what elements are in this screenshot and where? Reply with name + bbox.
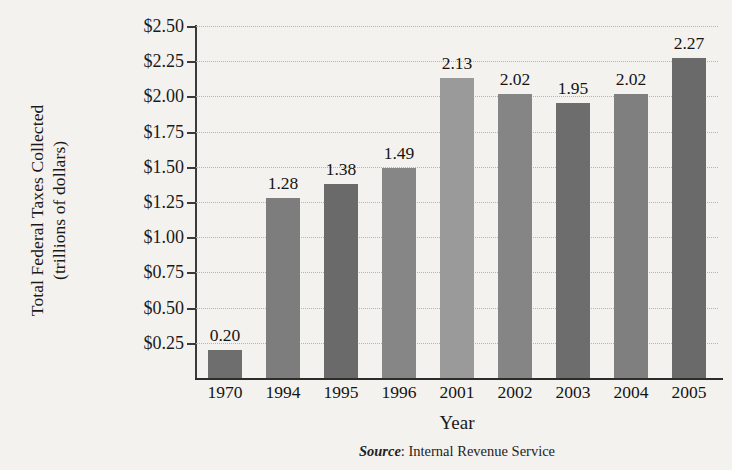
bar-slot: 1.381995 — [312, 26, 370, 378]
bar[interactable]: 2.02 — [614, 94, 649, 378]
x-tick-label: 1970 — [208, 382, 243, 403]
bar-slot: 1.491996 — [370, 26, 428, 378]
bar-value-label: 2.02 — [616, 69, 647, 90]
y-tick-mark — [187, 61, 196, 63]
bar-value-label: 1.38 — [326, 159, 357, 180]
y-tick-label: $2.25 — [144, 51, 185, 72]
bar-value-label: 1.28 — [268, 173, 299, 194]
bar[interactable]: 1.49 — [382, 168, 417, 378]
y-tick-mark — [187, 167, 196, 169]
x-tick-label: 2003 — [556, 382, 591, 403]
x-tick-label: 1994 — [266, 382, 301, 403]
source-text: Internal Revenue Service — [409, 443, 556, 459]
x-tick-label: 2005 — [672, 382, 707, 403]
x-tick-label: 1996 — [382, 382, 417, 403]
bar-slot: 0.201970 — [196, 26, 254, 378]
bar[interactable]: 2.02 — [498, 94, 533, 378]
source-label: Source — [359, 443, 401, 459]
y-tick-mark — [187, 237, 196, 239]
y-tick-mark — [187, 202, 196, 204]
y-tick-mark — [187, 272, 196, 274]
y-tick-label: $1.25 — [144, 192, 185, 213]
x-axis-line — [195, 378, 723, 380]
y-tick-label: $1.00 — [144, 227, 185, 248]
source-note: Source: Internal Revenue Service — [196, 443, 718, 460]
y-tick-mark — [187, 308, 196, 310]
x-tick-label: 2004 — [614, 382, 649, 403]
y-tick-label: $0.25 — [144, 332, 185, 353]
bar[interactable]: 0.20 — [208, 350, 243, 378]
bar-value-label: 2.27 — [674, 33, 705, 54]
bar-slot: 2.132001 — [428, 26, 486, 378]
bar-value-label: 2.02 — [500, 69, 531, 90]
bar-slot: 2.272005 — [660, 26, 718, 378]
x-tick-label: 2002 — [498, 382, 533, 403]
bar-value-label: 1.95 — [558, 78, 589, 99]
bar[interactable]: 2.13 — [440, 78, 475, 378]
bar[interactable]: 1.38 — [324, 184, 359, 378]
bar-slot: 2.022004 — [602, 26, 660, 378]
bar-value-label: 1.49 — [384, 143, 415, 164]
y-axis-title-line-1: Total Federal Taxes Collected — [26, 40, 48, 380]
x-axis-title: Year — [196, 412, 718, 434]
bar-chart-figure: Total Federal Taxes Collected (trillions… — [0, 0, 732, 470]
bar-value-label: 0.20 — [210, 325, 241, 346]
y-axis-title: Total Federal Taxes Collected (trillions… — [26, 40, 71, 380]
y-tick-label: $2.50 — [144, 16, 185, 37]
y-tick-mark — [187, 26, 196, 28]
y-tick-mark — [187, 132, 196, 134]
bar[interactable]: 2.27 — [672, 58, 707, 378]
bar-slot: 1.952003 — [544, 26, 602, 378]
bar-slot: 2.022002 — [486, 26, 544, 378]
y-tick-mark — [187, 343, 196, 345]
y-tick-label: $2.00 — [144, 86, 185, 107]
x-tick-label: 2001 — [440, 382, 475, 403]
y-tick-label: $1.75 — [144, 121, 185, 142]
bar[interactable]: 1.28 — [266, 198, 301, 378]
plot-area: $0.25$0.50$0.75$1.00$1.25$1.50$1.75$2.00… — [196, 26, 718, 378]
y-axis-title-line-2: (trillions of dollars) — [48, 40, 70, 380]
bar[interactable]: 1.95 — [556, 103, 591, 378]
bar-slot: 1.281994 — [254, 26, 312, 378]
source-separator: : — [401, 443, 409, 459]
y-tick-label: $0.50 — [144, 297, 185, 318]
y-tick-label: $1.50 — [144, 156, 185, 177]
y-tick-label: $0.75 — [144, 262, 185, 283]
y-tick-mark — [187, 96, 196, 98]
x-tick-label: 1995 — [324, 382, 359, 403]
bar-value-label: 2.13 — [442, 53, 473, 74]
